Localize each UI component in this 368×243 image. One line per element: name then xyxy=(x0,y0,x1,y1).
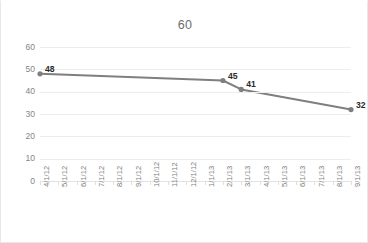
x-axis-tick-mark xyxy=(314,181,315,185)
data-point-marker xyxy=(220,78,225,83)
data-point-label: 45 xyxy=(228,72,238,81)
x-axis-tick-mark xyxy=(95,181,96,185)
gridline xyxy=(40,159,351,160)
gridline xyxy=(40,92,351,93)
x-axis-tick-mark xyxy=(150,181,151,185)
x-axis-tick-label: 4/1/13 xyxy=(263,166,271,187)
x-axis-tick-label: 1/1/13 xyxy=(208,166,216,187)
x-axis-tick-mark xyxy=(205,181,206,185)
x-axis-tick-label: 12/1/12 xyxy=(190,162,198,187)
y-axis: 6050403020100 xyxy=(1,47,35,181)
x-axis-tick-label: 3/1/13 xyxy=(244,166,252,187)
x-axis-tick-label: 9/1/12 xyxy=(135,166,143,187)
x-axis: 4/1/125/1/126/1/127/1/128/1/129/1/1210/1… xyxy=(40,181,351,241)
x-axis-tick-label: 2/1/13 xyxy=(226,166,234,187)
x-axis-tick-mark xyxy=(40,181,41,185)
x-axis-tick-label: 9/1/13 xyxy=(354,166,362,187)
gridline xyxy=(40,47,351,48)
x-axis-tick-label: 8/1/12 xyxy=(116,166,124,187)
data-point-label: 32 xyxy=(356,101,366,110)
x-axis-tick-label: 6/1/12 xyxy=(80,166,88,187)
data-point-marker xyxy=(37,71,42,76)
x-axis-tick-mark xyxy=(260,181,261,185)
x-axis-tick-label: 4/1/12 xyxy=(43,166,51,187)
x-axis-tick-mark xyxy=(186,181,187,185)
data-point-marker xyxy=(348,107,353,112)
x-axis-tick-label: 5/1/12 xyxy=(61,166,69,187)
x-axis-tick-label: 7/1/13 xyxy=(318,166,326,187)
chart-container: 60 6050403020100 48454132 4/1/125/1/126/… xyxy=(0,0,368,243)
x-axis-tick-mark xyxy=(278,181,279,185)
y-axis-tick-label: 50 xyxy=(5,65,35,74)
y-axis-tick-label: 10 xyxy=(5,154,35,163)
y-axis-tick-label: 20 xyxy=(5,132,35,141)
x-axis-tick-mark xyxy=(296,181,297,185)
x-axis-tick-mark xyxy=(333,181,334,185)
x-axis-tick-mark xyxy=(77,181,78,185)
gridline xyxy=(40,114,351,115)
x-axis-tick-mark xyxy=(131,181,132,185)
data-point-label: 48 xyxy=(45,65,55,74)
gridline xyxy=(40,136,351,137)
data-point-label: 41 xyxy=(246,80,256,89)
x-axis-tick-label: 5/1/13 xyxy=(281,166,289,187)
x-axis-tick-label: 11/1/12 xyxy=(171,162,179,187)
x-axis-tick-mark xyxy=(168,181,169,185)
y-axis-tick-label: 40 xyxy=(5,87,35,96)
x-axis-tick-label: 7/1/12 xyxy=(98,166,106,187)
x-axis-tick-mark xyxy=(351,181,352,185)
x-axis-tick-label: 8/1/13 xyxy=(336,166,344,187)
y-axis-tick-label: 30 xyxy=(5,110,35,119)
chart-title: 60 xyxy=(1,18,368,32)
y-axis-tick-label: 0 xyxy=(5,177,35,186)
y-axis-tick-label: 60 xyxy=(5,43,35,52)
gridline xyxy=(40,69,351,70)
x-axis-tick-mark xyxy=(223,181,224,185)
x-axis-tick-label: 10/1/12 xyxy=(153,162,161,187)
x-axis-tick-label: 6/1/13 xyxy=(299,166,307,187)
